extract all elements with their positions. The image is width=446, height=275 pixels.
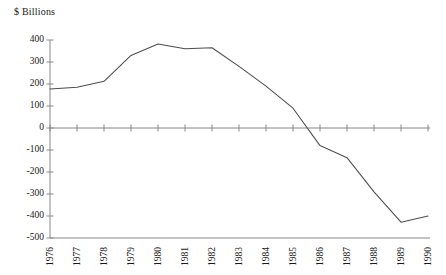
y-axis <box>47 40 54 238</box>
plot-area <box>0 0 446 275</box>
chart-container: $ Billions 4003002001000-100-200-300-400… <box>0 0 446 275</box>
data-series-line <box>50 44 428 222</box>
x-axis-zero-line <box>50 125 430 132</box>
